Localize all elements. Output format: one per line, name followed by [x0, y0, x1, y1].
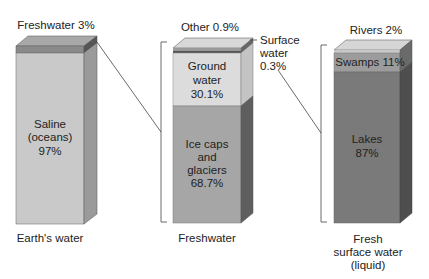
label-saline-2: (oceans): [16, 131, 84, 144]
bar2-other-segment: [173, 48, 241, 51]
label-rivers: Rivers 2%: [338, 24, 414, 37]
label-ground-1: Ground: [173, 60, 241, 73]
bar2-top-face: [173, 38, 253, 48]
connector-line-1: [97, 42, 161, 132]
caption-fresh-3: (liquid): [320, 259, 416, 272]
label-ice-4: 68.7%: [173, 177, 241, 190]
label-lakes-2: 87%: [334, 147, 400, 160]
label-swamps: Swamps 11%: [334, 56, 406, 69]
caption-earths-water: Earth's water: [10, 232, 90, 245]
connector-line-2: [278, 70, 321, 133]
label-ground-3: 30.1%: [173, 88, 241, 101]
label-ice-1: Ice caps: [173, 138, 241, 151]
label-saline-1: Saline: [16, 118, 84, 131]
bar3-top-face: [334, 40, 412, 50]
bracket-freshwater: [161, 42, 167, 222]
bar2-side-lower: [241, 96, 253, 223]
caption-fresh-1: Fresh: [320, 233, 416, 246]
bar3-rivers-segment: [334, 50, 400, 53]
bracket-fresh-surface: [321, 45, 327, 222]
bar3-side-lower: [400, 62, 412, 223]
label-other: Other 0.9%: [170, 21, 250, 34]
bar2-surface-segment: [173, 51, 241, 53]
label-ice-2: and: [173, 151, 241, 164]
label-surface-3: 0.3%: [260, 60, 286, 73]
bar1-side-face: [84, 36, 97, 224]
bar1-top-face: [16, 36, 97, 46]
label-ground-2: water: [173, 74, 241, 87]
label-surface-2: water: [260, 47, 288, 60]
label-surface-1: Surface: [260, 34, 300, 47]
caption-fresh-2: surface water: [320, 246, 416, 259]
label-ice-3: glaciers: [173, 164, 241, 177]
label-lakes-1: Lakes: [334, 133, 400, 146]
label-freshwater-3: Freshwater 3%: [14, 19, 98, 32]
label-saline-3: 97%: [16, 145, 84, 158]
bar1-freshwater-segment: [16, 46, 84, 53]
caption-freshwater: Freshwater: [167, 232, 247, 245]
